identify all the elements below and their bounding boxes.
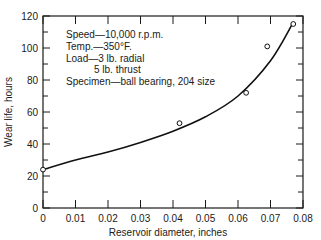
y-tick-label: 0 <box>32 203 38 214</box>
x-tick-labels: 00.010.020.030.040.050.060.070.08 <box>40 213 313 224</box>
x-tick-label: 0 <box>40 213 46 224</box>
x-tick-label: 0.04 <box>163 213 183 224</box>
data-point <box>177 121 182 126</box>
x-tick-label: 0.08 <box>293 213 313 224</box>
x-tick-label: 0.07 <box>261 213 281 224</box>
y-tick-label: 60 <box>27 107 39 118</box>
y-tick-label: 120 <box>21 11 38 22</box>
chart: 00.010.020.030.040.050.060.070.08 020406… <box>0 0 321 240</box>
x-tick-label: 0.03 <box>131 213 151 224</box>
x-tick-label: 0.06 <box>228 213 248 224</box>
x-tick-label: 0.02 <box>98 213 118 224</box>
data-point <box>244 90 249 95</box>
y-tick-label: 80 <box>27 75 39 86</box>
data-point <box>291 22 296 27</box>
y-tick-label: 40 <box>27 139 39 150</box>
y-tick-label: 20 <box>27 171 39 182</box>
x-tick-label: 0.05 <box>196 213 216 224</box>
y-tick-labels: 020406080100120 <box>21 11 38 214</box>
data-point <box>41 167 46 172</box>
y-axis-title: Wear life, hours <box>3 77 14 147</box>
annotation-temp: Temp.—350°F. <box>66 41 132 52</box>
y-tick-label: 100 <box>21 43 38 54</box>
annotation-specimen: Specimen—ball bearing, 204 size <box>66 76 215 87</box>
x-axis-title: Reservoir diameter, inches <box>109 227 227 238</box>
annotation-speed: Speed—10,000 r.p.m. <box>66 29 163 40</box>
data-point <box>265 44 270 49</box>
x-tick-label: 0.01 <box>66 213 86 224</box>
annotation-load-thrust: 5 lb. thrust <box>94 64 141 75</box>
annotation-box: Speed—10,000 r.p.m. Temp.—350°F. Load—3 … <box>66 29 215 87</box>
annotation-load-radial: Load—3 lb. radial <box>66 53 144 64</box>
